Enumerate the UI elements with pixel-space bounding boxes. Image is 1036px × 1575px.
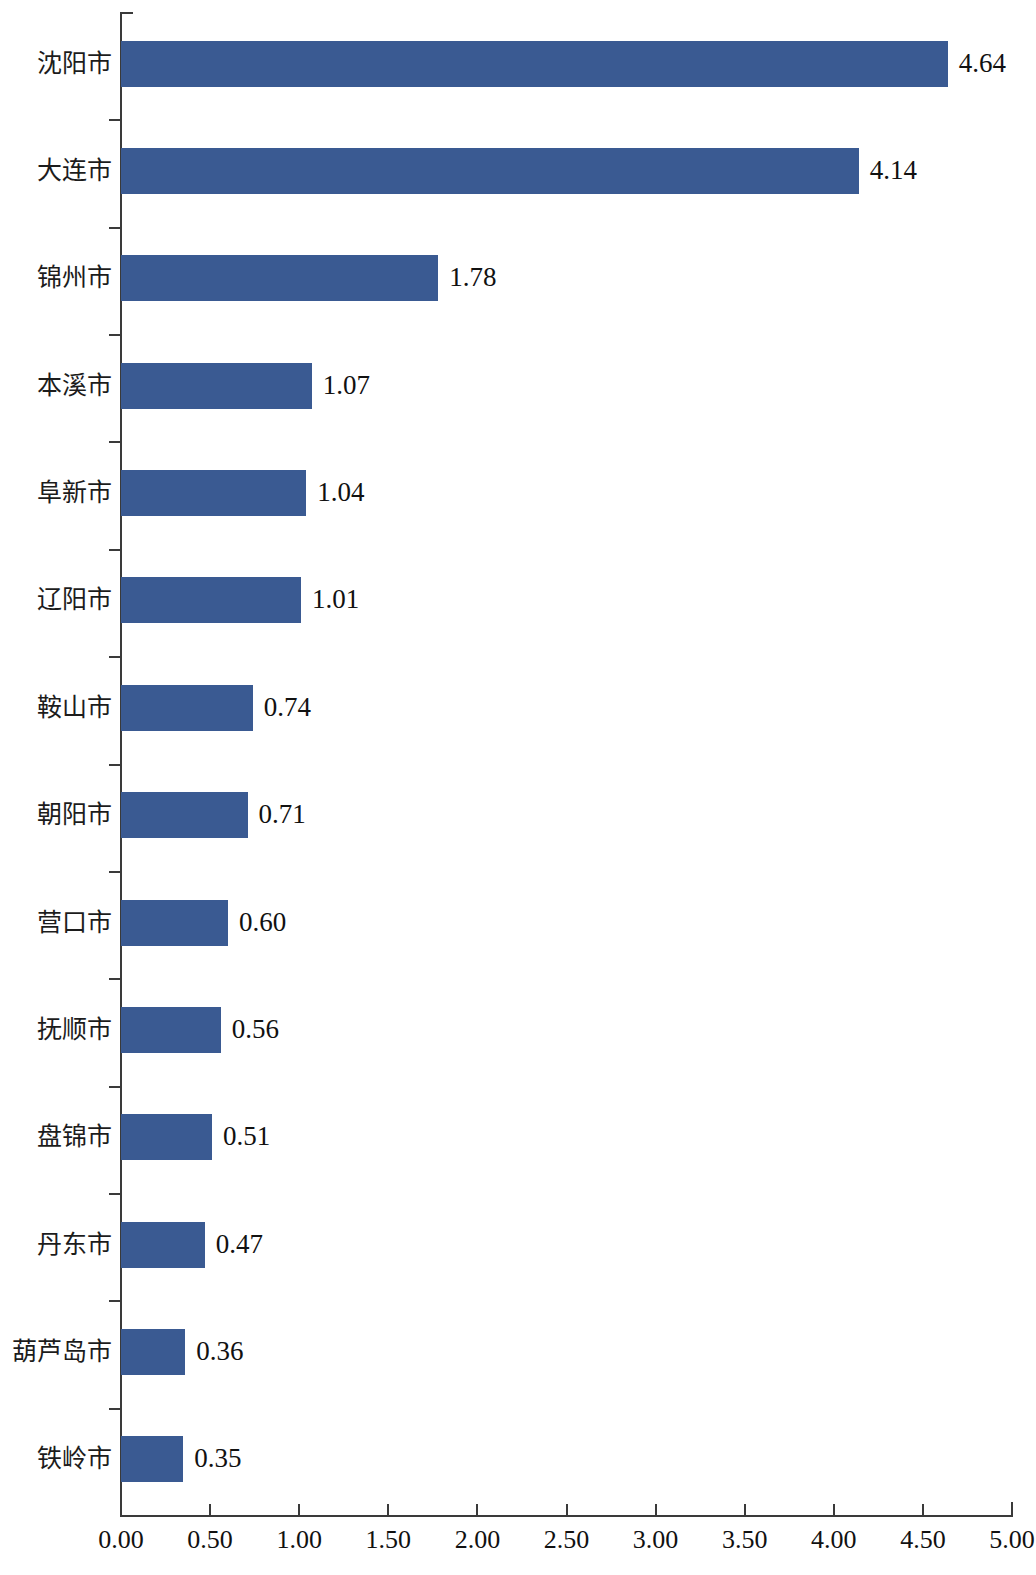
y-axis-tick [109, 119, 122, 121]
category-label: 本溪市 [0, 373, 112, 398]
bar-value-label: 4.64 [959, 50, 1006, 77]
x-axis-tick [387, 1504, 389, 1516]
bar [121, 1114, 212, 1160]
y-axis-tick [109, 978, 122, 980]
bar-value-label: 1.01 [312, 586, 359, 613]
y-axis-tick [109, 764, 122, 766]
bar-value-label: 1.78 [449, 264, 496, 291]
bar-value-label: 0.71 [259, 801, 306, 828]
y-axis-tick [109, 1086, 122, 1088]
x-axis-tick [298, 1504, 300, 1516]
x-axis-tick [833, 1504, 835, 1516]
y-axis-tick [109, 549, 122, 551]
x-axis-tick [209, 1504, 211, 1516]
category-label: 鞍山市 [0, 695, 112, 720]
bar [121, 255, 438, 301]
category-label: 丹东市 [0, 1232, 112, 1257]
x-axis-tick [566, 1504, 568, 1516]
x-axis-tick-label: 5.00 [989, 1527, 1035, 1553]
bar-value-label: 0.47 [216, 1231, 263, 1258]
x-axis-tick-label: 3.50 [722, 1527, 768, 1553]
bar [121, 900, 228, 946]
bar-value-label: 0.74 [264, 694, 311, 721]
bar [121, 363, 312, 409]
bar-value-label: 4.14 [870, 157, 917, 184]
x-axis-tick [476, 1504, 478, 1516]
category-label: 辽阳市 [0, 587, 112, 612]
x-axis-tick-label: 2.00 [455, 1527, 501, 1553]
x-axis-tick-label: 4.50 [900, 1527, 946, 1553]
x-axis-tick [655, 1504, 657, 1516]
bar [121, 1007, 221, 1053]
bar [121, 685, 253, 731]
bar [121, 470, 306, 516]
bar-value-label: 1.04 [317, 479, 364, 506]
x-axis-tick-label: 3.00 [633, 1527, 679, 1553]
y-axis-tick [109, 227, 122, 229]
bar-chart: 沈阳市4.64大连市4.14锦州市1.78本溪市1.07阜新市1.04辽阳市1.… [0, 0, 1036, 1575]
y-axis-tick [109, 1408, 122, 1410]
category-label: 阜新市 [0, 480, 112, 505]
category-label: 葫芦岛市 [0, 1339, 112, 1364]
bar-value-label: 0.36 [196, 1338, 243, 1365]
x-axis-tick-label: 1.50 [366, 1527, 412, 1553]
bar [121, 41, 948, 87]
category-label: 大连市 [0, 158, 112, 183]
x-axis-tick [922, 1504, 924, 1516]
y-axis-tick [109, 441, 122, 443]
bar-value-label: 1.07 [323, 372, 370, 399]
bar [121, 577, 301, 623]
bar [121, 792, 248, 838]
category-label: 沈阳市 [0, 51, 112, 76]
category-label: 营口市 [0, 910, 112, 935]
bar [121, 1329, 185, 1375]
y-axis-tick [109, 1300, 122, 1302]
x-axis-tick-label: 1.00 [276, 1527, 322, 1553]
y-axis-tick [109, 871, 122, 873]
x-axis-tick [744, 1504, 746, 1516]
bar-value-label: 0.56 [232, 1016, 279, 1043]
x-axis-tick-label: 4.00 [811, 1527, 857, 1553]
category-label: 抚顺市 [0, 1017, 112, 1042]
x-axis-tick-label: 0.50 [187, 1527, 233, 1553]
bar [121, 1222, 205, 1268]
x-axis-tick-label: 0.00 [98, 1527, 144, 1553]
x-axis-tick [1011, 1502, 1013, 1516]
y-axis-top-cap [121, 12, 133, 14]
y-axis-tick [109, 1193, 122, 1195]
category-label: 盘锦市 [0, 1124, 112, 1149]
category-label: 锦州市 [0, 265, 112, 290]
x-axis-tick-label: 2.50 [544, 1527, 590, 1553]
bar-value-label: 0.51 [223, 1123, 270, 1150]
bar-value-label: 0.60 [239, 909, 286, 936]
category-label: 朝阳市 [0, 802, 112, 827]
bar-value-label: 0.35 [194, 1445, 241, 1472]
y-axis-tick [109, 334, 122, 336]
bar [121, 1436, 183, 1482]
category-label: 铁岭市 [0, 1446, 112, 1471]
y-axis-tick [109, 656, 122, 658]
bar [121, 148, 859, 194]
